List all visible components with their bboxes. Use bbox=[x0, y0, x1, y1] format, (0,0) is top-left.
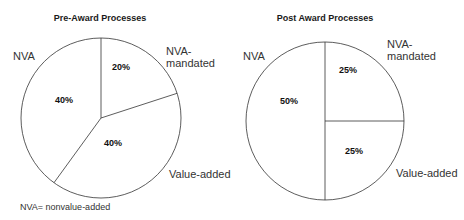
pre-award-pct-value-added: 40% bbox=[104, 138, 122, 148]
pre-award-label-value-added: Value-added bbox=[169, 168, 231, 180]
post-award-pct-nva: 50% bbox=[280, 96, 298, 106]
post-award-label-value-added: Value-added bbox=[396, 167, 458, 179]
post-award-pie bbox=[246, 42, 404, 200]
footnote: NVA= nonvalue-added bbox=[20, 202, 110, 212]
post-award-pct-mandated: 25% bbox=[339, 65, 357, 75]
post-award-pct-value-added: 25% bbox=[345, 146, 363, 156]
pre-award-pie bbox=[21, 38, 181, 198]
pre-award-pct-mandated: 20% bbox=[112, 62, 130, 72]
post-award-label-nva-mandated-2: mandated bbox=[387, 50, 436, 62]
pre-award-label-nva-mandated-2: mandated bbox=[166, 57, 215, 69]
pre-award-label-nva-mandated-1: NVA- bbox=[166, 45, 191, 57]
pre-award-label-nva: NVA bbox=[13, 50, 35, 62]
pre-award-title: Pre-Award Processes bbox=[50, 13, 150, 23]
pie-charts bbox=[0, 0, 464, 220]
post-award-title: Post Award Processes bbox=[275, 13, 375, 23]
pre-award-pct-nva: 40% bbox=[55, 95, 73, 105]
post-award-label-nva-mandated-1: NVA- bbox=[387, 38, 412, 50]
post-award-label-nva: NVA bbox=[243, 50, 265, 62]
